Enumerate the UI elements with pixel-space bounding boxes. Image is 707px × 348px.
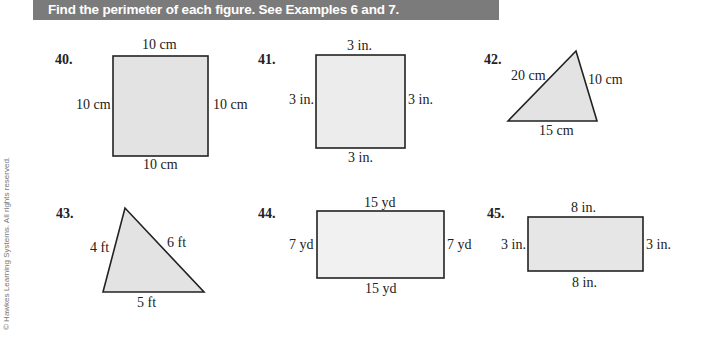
figure-42-triangle [508,51,597,121]
side-label-left: 4 ft [90,240,109,256]
problem-number-44: 44. [258,206,276,222]
figure-41-square [316,55,405,148]
problem-number-41: 41. [258,52,276,68]
side-label-left: 7 yd [289,237,314,253]
side-label-right: 7 yd [447,237,472,253]
side-label-bottom: 8 in. [572,275,597,291]
side-label-right: 10 cm [213,97,248,113]
side-label-top: 15 yd [364,195,396,211]
figure-44-rectangle [317,211,444,278]
figure-40-square [113,56,208,156]
problem-number-40: 40. [55,52,73,68]
side-label-right: 3 in. [646,237,671,253]
side-label-bottom: 15 cm [539,123,574,139]
figure-45-rectangle [528,217,643,271]
side-label-left: 20 cm [511,68,546,84]
problem-number-42: 42. [484,52,502,68]
problem-number-45: 45. [487,206,505,222]
side-label-top: 8 in. [571,200,596,216]
side-label-left: 3 in. [501,237,526,253]
side-label-bottom: 10 cm [143,157,178,173]
side-label-bottom: 3 in. [348,150,373,166]
side-label-right: 3 in. [408,92,433,108]
figure-43-triangle [103,208,204,292]
copyright-notice: © Hawkes Learning Systems. All rights re… [2,157,11,330]
problem-number-43: 43. [56,206,74,222]
side-label-top: 3 in. [347,38,372,54]
side-label-bottom: 15 yd [365,281,397,297]
side-label-bottom: 5 ft [137,295,156,311]
side-label-right: 10 cm [588,72,623,88]
side-label-right: 6 ft [167,235,186,251]
side-label-left: 10 cm [76,97,111,113]
side-label-top: 10 cm [142,37,177,53]
side-label-left: 3 in. [289,92,314,108]
